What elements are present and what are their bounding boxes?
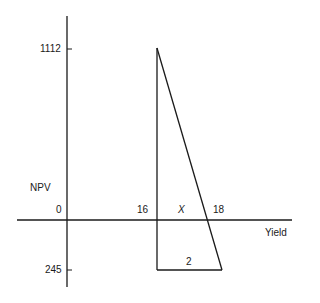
base-length-label: 2 xyxy=(186,256,192,268)
y-tick-label-245: 245 xyxy=(45,264,62,276)
x-axis-label: Yield xyxy=(265,227,287,239)
x-point-label-18: 18 xyxy=(213,204,224,216)
hypotenuse-line xyxy=(157,48,222,270)
x-point-label-16: 16 xyxy=(137,204,148,216)
y-axis-label: NPV xyxy=(30,182,51,194)
y-tick-label-1112: 1112 xyxy=(40,43,61,55)
unknown-x-label: X xyxy=(178,204,185,216)
origin-label: 0 xyxy=(56,204,62,216)
